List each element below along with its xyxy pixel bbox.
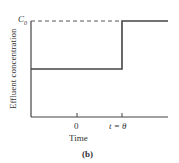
figure-caption: (b) xyxy=(82,149,93,159)
y-axis-label: Effluent concentration xyxy=(8,29,18,109)
step-response-line xyxy=(31,21,168,69)
y-tick-c0: C0 xyxy=(18,14,27,26)
c0-subscript: 0 xyxy=(24,20,27,26)
x-axis-label: Time xyxy=(69,133,88,143)
x-tick-label-theta: t = θ xyxy=(109,121,127,131)
x-tick-label-zero: 0 xyxy=(74,121,79,131)
